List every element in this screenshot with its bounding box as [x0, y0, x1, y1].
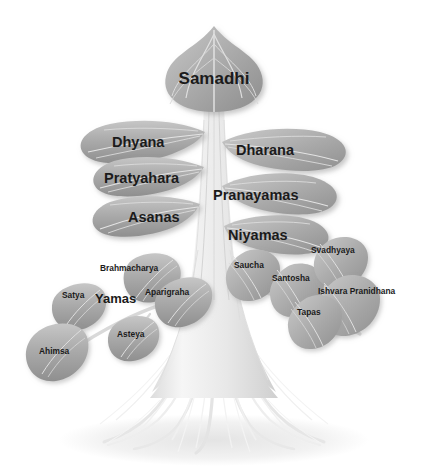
- leaf-asanas: Asanas: [93, 196, 200, 237]
- leaf-label-dharana: Dharana: [236, 142, 295, 158]
- leaf-label-pratyahara: Pratyahara: [104, 170, 180, 186]
- leaf-pratyahara: Pratyahara: [93, 157, 204, 197]
- leaf-label-dhyana: Dhyana: [112, 134, 165, 150]
- group-label-yamas: Yamas: [95, 291, 136, 306]
- leaf-label-tapas: Tapas: [297, 307, 321, 317]
- tree-illustration: Samadhi Dhyana Dharana Pratyahara Pranay…: [0, 0, 428, 474]
- leaf-pranayamas: Pranayamas: [213, 173, 337, 214]
- leaf-label-asanas: Asanas: [128, 209, 180, 225]
- leaf-label-aparigraha: Aparigraha: [145, 287, 190, 297]
- leaf-dharana: Dharana: [222, 129, 346, 171]
- leaf-label-samadhi: Samadhi: [179, 69, 250, 88]
- leaf-label-brahmacharya: Brahmacharya: [100, 263, 159, 273]
- leaf-label-satya: Satya: [62, 290, 85, 300]
- leaf-label-ahimsa: Ahimsa: [39, 346, 70, 356]
- leaf-label-saucha: Saucha: [234, 260, 264, 270]
- leaf-label-santosha: Santosha: [272, 273, 310, 283]
- leaf-label-asteya: Asteya: [117, 329, 145, 339]
- leaf-label-svadhyaya: Svadhyaya: [311, 245, 355, 255]
- leaf-tapas: Tapas: [288, 295, 342, 349]
- leaf-label-pranayamas: Pranayamas: [213, 187, 298, 203]
- leaf-ahimsa: Ahimsa: [26, 324, 88, 382]
- leaf-label-ishvara-pranidhana: Ishvara Pranidhana: [318, 286, 396, 296]
- leaf-samadhi: Samadhi: [165, 26, 262, 112]
- leaf-label-niyamas: Niyamas: [228, 227, 288, 243]
- yoga-tree-diagram: Samadhi Dhyana Dharana Pratyahara Pranay…: [0, 0, 428, 474]
